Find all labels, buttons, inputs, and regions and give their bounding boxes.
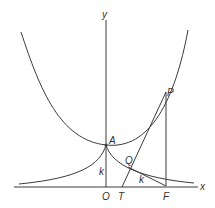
tractrix-left-branch — [19, 145, 106, 184]
x-axis-label: x — [199, 181, 206, 192]
tractrix-right-branch — [106, 145, 194, 183]
y-axis-label: y — [101, 9, 108, 20]
label-A: A — [108, 135, 116, 146]
label-F: F — [163, 191, 170, 202]
segment-QF — [128, 167, 166, 186]
label-P: P — [167, 87, 174, 98]
point-A-dot — [105, 144, 108, 147]
label-k-OA: k — [99, 166, 105, 177]
label-O: O — [102, 191, 110, 202]
label-k-QF: k — [139, 174, 145, 185]
label-T: T — [118, 191, 125, 202]
tangent-line-PT — [122, 92, 166, 187]
catenary-curve — [21, 30, 188, 145]
label-Q: Q — [125, 155, 133, 166]
catenary-tractrix-diagram: y x A P Q O T F k k — [0, 0, 215, 208]
